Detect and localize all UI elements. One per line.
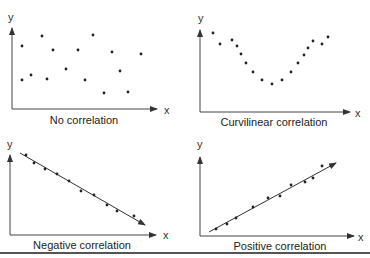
data-point [212,32,215,35]
correlation-figure: y x No correlation y x Curvilinear corre… [0,0,370,258]
data-point [215,228,218,231]
data-point [240,53,243,56]
data-point [267,197,270,200]
data-point [111,51,114,54]
data-point [33,162,36,165]
data-point [297,62,300,65]
data-point [261,79,264,82]
data-point [321,165,324,168]
panel-curvilinear-correlation: y x Curvilinear correlation [198,12,361,128]
data-point [252,206,255,209]
x-axis-label: x [163,229,169,241]
data-point [127,91,130,94]
data-point [271,83,274,86]
data-points [25,154,136,218]
data-point [226,223,229,226]
panel-negative-correlation: y x Negative correlation [7,138,169,251]
data-point [41,35,44,38]
data-point [119,70,122,73]
data-points [212,32,330,86]
data-point [92,34,95,37]
data-point [21,79,24,82]
panel-positive-correlation: y x Positive correlation [197,138,364,252]
data-point [21,45,24,48]
trend-line [209,163,336,232]
caption: Negative correlation [33,239,131,251]
data-point [52,49,55,52]
data-point [103,92,106,95]
data-point [312,40,315,43]
y-axis-label: y [8,11,14,23]
data-point [25,154,28,157]
trend-line [20,153,145,225]
data-points [21,34,143,95]
data-point [290,71,293,74]
data-point [304,181,307,184]
caption: Positive correlation [234,240,327,252]
data-point [140,53,143,56]
y-axis-label: y [198,12,204,24]
panel-no-correlation: y x No correlation [8,11,170,126]
data-point [321,43,324,46]
caption: No correlation [50,114,118,126]
data-point [68,180,71,183]
caption: Curvilinear correlation [221,116,328,128]
data-point [235,217,238,220]
data-point [46,78,49,81]
data-point [116,210,119,213]
data-point [307,47,310,50]
data-point [30,74,33,77]
data-point [44,168,47,171]
data-point [236,45,239,48]
data-point [281,79,284,82]
data-point [80,190,83,193]
data-point [290,184,293,187]
y-axis-label: y [7,138,13,150]
data-point [56,173,59,176]
data-point [303,54,306,57]
data-point [219,43,222,46]
data-point [93,194,96,197]
x-axis-label: x [355,107,361,119]
data-point [106,204,109,207]
data-point [65,68,68,71]
data-point [252,71,255,74]
x-axis-label: x [164,104,170,116]
data-point [133,215,136,218]
data-point [279,195,282,198]
y-axis-label: y [197,138,203,150]
bottom-divider [0,252,370,254]
data-point [84,79,87,82]
data-point [327,36,330,39]
data-point [77,49,80,52]
data-point [231,39,234,42]
x-axis-label: x [358,231,364,243]
data-point [312,177,315,180]
data-point [245,62,248,65]
